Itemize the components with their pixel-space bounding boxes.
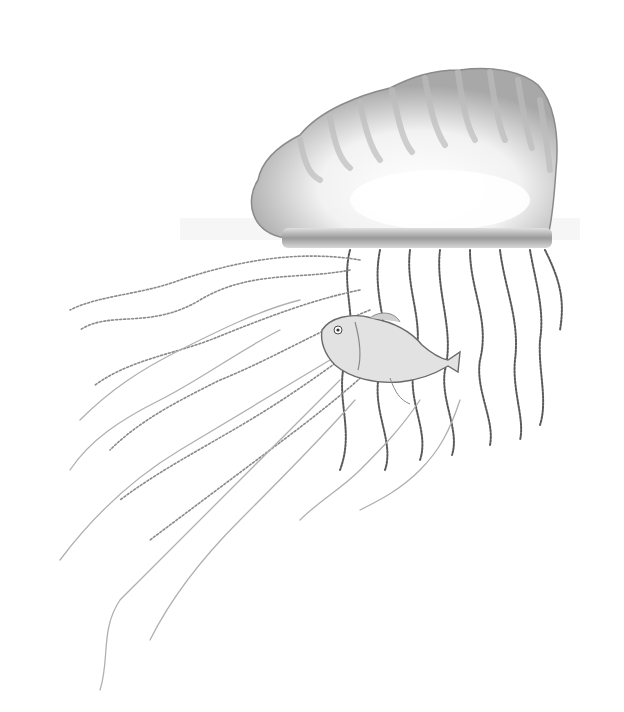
waterline-band <box>282 228 552 248</box>
man-o-war-illustration <box>0 0 624 712</box>
tentacles <box>60 250 562 690</box>
float-bladder <box>251 69 557 238</box>
